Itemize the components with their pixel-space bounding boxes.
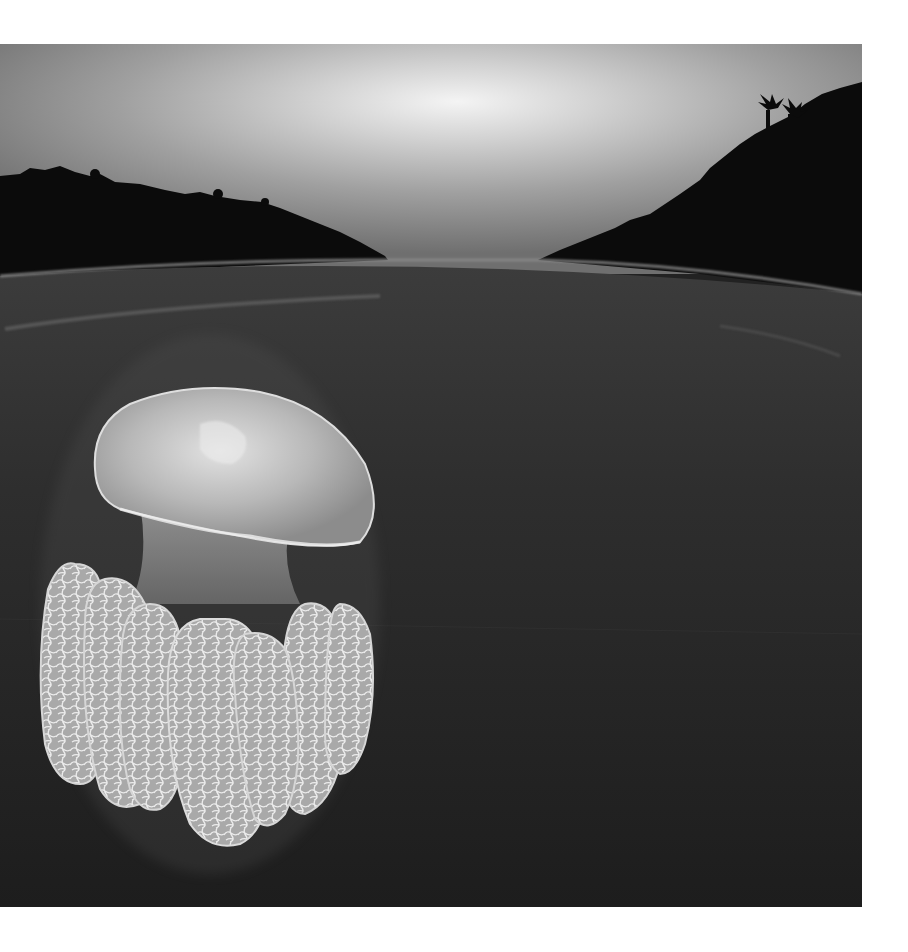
jellyfish	[40, 334, 380, 874]
photo-illustration	[0, 44, 862, 907]
jellyfish-photo	[0, 44, 862, 907]
